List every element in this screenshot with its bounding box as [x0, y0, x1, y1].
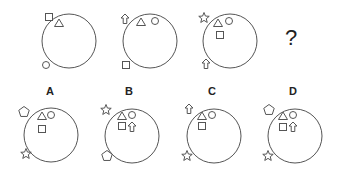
square-icon [199, 123, 206, 130]
sequence-panel-2 [121, 14, 177, 69]
question-mark: ? [285, 25, 297, 51]
option-label-d[interactable]: D [289, 85, 297, 97]
option-label-a[interactable]: A [46, 85, 54, 97]
big-circle [187, 109, 241, 163]
pentagon-icon [19, 107, 29, 117]
arrow-up-icon [121, 14, 129, 24]
square-icon [39, 126, 46, 133]
big-circle [123, 14, 177, 68]
square-icon [217, 32, 224, 39]
star-icon [199, 13, 209, 23]
square-icon [46, 14, 53, 21]
arrow-up-icon [128, 122, 136, 132]
big-circle [42, 14, 96, 68]
big-circle [24, 108, 78, 162]
option-label-c[interactable]: C [208, 85, 216, 97]
big-circle [203, 14, 257, 68]
pentagon-icon [264, 105, 274, 115]
star-icon [101, 105, 111, 115]
star-icon [21, 149, 31, 159]
star-icon [263, 151, 273, 161]
option-panel-d[interactable] [263, 105, 322, 164]
triangle-icon [38, 112, 47, 120]
big-circle [268, 109, 322, 163]
square-icon [123, 62, 130, 69]
option-panel-b[interactable] [101, 105, 159, 164]
option-panel-a[interactable] [19, 107, 78, 163]
circle-icon [43, 62, 50, 69]
circle-icon [226, 18, 233, 25]
sequence-panel-1 [42, 14, 96, 69]
option-panel-c[interactable] [182, 104, 241, 163]
big-circle [105, 109, 159, 163]
option-label-b[interactable]: B [125, 85, 133, 97]
sequence-panel-3 [199, 13, 257, 69]
square-icon [119, 123, 126, 130]
circle-icon [290, 112, 297, 119]
circle-icon [48, 112, 55, 119]
circle-icon [209, 112, 216, 119]
arrow-up-icon [289, 122, 297, 132]
square-icon [280, 124, 287, 131]
triangle-icon [118, 112, 127, 120]
star-icon [182, 151, 192, 161]
triangle-icon [214, 19, 223, 27]
arrow-up-icon [202, 59, 210, 69]
arrow-up-icon [185, 104, 193, 114]
triangle-icon [137, 18, 146, 26]
triangle-icon [55, 19, 64, 27]
circle-icon [152, 18, 159, 25]
circle-icon [129, 112, 136, 119]
